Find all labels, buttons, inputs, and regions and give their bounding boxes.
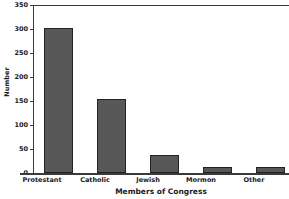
x-axis-label-protestant: Protestant bbox=[14, 176, 70, 184]
y-axis-tick: 250 bbox=[0, 49, 33, 58]
y-axis-tick: 100 bbox=[0, 121, 33, 130]
y-axis-tick: 200 bbox=[0, 73, 33, 82]
x-axis-label-mormon: Mormon bbox=[173, 176, 229, 184]
bar-jewish[interactable] bbox=[150, 155, 179, 173]
x-axis-title: Members of Congress bbox=[33, 187, 289, 196]
x-axis-label-jewish: Jewish bbox=[120, 176, 176, 184]
y-axis-tick: 150 bbox=[0, 97, 33, 106]
x-axis-label-catholic: Catholic bbox=[67, 176, 123, 184]
bar-chart: Number 0 50 100 150 200 250 300 bbox=[0, 0, 289, 199]
bar-catholic[interactable] bbox=[97, 99, 126, 173]
y-axis-tick: 300 bbox=[0, 25, 33, 34]
y-axis-tick: 350 bbox=[0, 1, 33, 10]
x-axis-label-other: Other bbox=[226, 176, 282, 184]
bar-mormon[interactable] bbox=[203, 167, 232, 173]
bar-other[interactable] bbox=[256, 167, 285, 173]
x-axis-line bbox=[20, 173, 289, 175]
y-axis-tick: 50 bbox=[0, 145, 33, 154]
bar-series bbox=[34, 5, 289, 173]
bar-protestant[interactable] bbox=[44, 28, 73, 173]
